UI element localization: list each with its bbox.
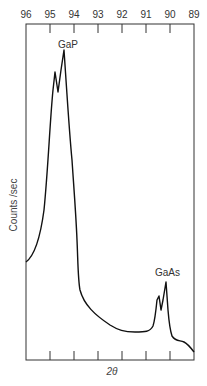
tick-label: 92 [116,9,128,20]
tick-label: 89 [188,9,200,20]
intensity-curve [26,50,194,352]
peak-label-gap: GaP [58,39,78,50]
bottom-ticks [50,351,170,360]
peak-label-gaas: GaAs [155,267,180,278]
tick-label: 90 [164,9,176,20]
plot-frame [26,24,194,360]
tick-label: 91 [140,9,152,20]
tick-label: 94 [68,9,80,20]
tick-label: 96 [20,9,32,20]
x-axis-title: 2θ [106,366,119,377]
tick-label: 95 [44,9,56,20]
top-ticks [50,24,170,33]
x-tick-labels: 96 95 94 93 92 91 90 89 [20,9,200,20]
xrd-chart: 96 95 94 93 92 91 90 89 GaP GaAs Counts … [0,0,207,386]
tick-label: 93 [92,9,104,20]
y-axis-title: Counts /sec [8,179,19,232]
